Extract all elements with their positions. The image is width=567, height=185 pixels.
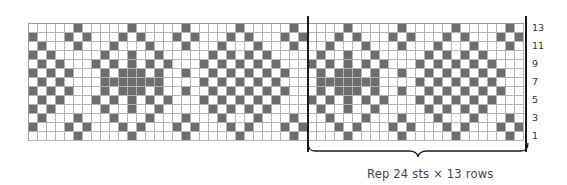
chart-cell xyxy=(371,33,380,42)
chart-cell xyxy=(290,105,299,114)
chart-cell xyxy=(236,105,245,114)
chart-cell xyxy=(434,96,443,105)
chart-cell xyxy=(65,60,74,69)
chart-cell xyxy=(92,78,101,87)
chart-cell xyxy=(452,24,461,33)
chart-cell xyxy=(362,96,371,105)
chart-cell xyxy=(182,78,191,87)
chart-cell xyxy=(353,114,362,123)
chart-cell xyxy=(200,60,209,69)
chart-cell xyxy=(209,96,218,105)
chart-cell xyxy=(281,51,290,60)
chart-cell xyxy=(416,51,425,60)
chart-cell xyxy=(47,51,56,60)
chart-cell xyxy=(227,51,236,60)
chart-cell xyxy=(308,105,317,114)
chart-cell xyxy=(101,105,110,114)
row-number-label: 1 xyxy=(532,131,538,140)
chart-cell xyxy=(380,60,389,69)
chart-cell xyxy=(110,114,119,123)
repeat-line-right xyxy=(525,16,527,152)
chart-cell xyxy=(389,51,398,60)
chart-cell xyxy=(65,78,74,87)
chart-cell xyxy=(452,42,461,51)
chart-cell xyxy=(344,51,353,60)
chart-cell xyxy=(236,42,245,51)
chart-cell xyxy=(191,132,200,141)
chart-cell xyxy=(488,123,497,132)
chart-cell xyxy=(434,24,443,33)
chart-cell xyxy=(281,105,290,114)
chart-cell xyxy=(29,105,38,114)
chart-cell xyxy=(272,96,281,105)
chart-cell xyxy=(56,60,65,69)
chart-cell xyxy=(506,24,515,33)
chart-cell xyxy=(74,69,83,78)
chart-cell xyxy=(227,132,236,141)
chart-cell xyxy=(137,123,146,132)
chart-cell xyxy=(137,33,146,42)
chart-cell xyxy=(362,123,371,132)
chart-cell xyxy=(452,60,461,69)
chart-cell xyxy=(38,42,47,51)
chart-cell xyxy=(191,87,200,96)
chart-cell xyxy=(110,87,119,96)
chart-cell xyxy=(488,24,497,33)
chart-cell xyxy=(308,87,317,96)
chart-cell xyxy=(335,69,344,78)
chart-cell xyxy=(146,78,155,87)
chart-cell xyxy=(110,78,119,87)
chart-cell xyxy=(398,51,407,60)
chart-cell xyxy=(308,132,317,141)
chart-cell xyxy=(56,78,65,87)
chart-cell xyxy=(263,78,272,87)
chart-cell xyxy=(155,105,164,114)
chart-cell xyxy=(83,105,92,114)
chart-cell xyxy=(128,51,137,60)
chart-cell xyxy=(200,132,209,141)
chart-cell xyxy=(344,96,353,105)
chart-cell xyxy=(263,42,272,51)
chart-cell xyxy=(29,42,38,51)
chart-cell xyxy=(119,105,128,114)
chart-cell xyxy=(164,87,173,96)
chart-cell xyxy=(425,114,434,123)
chart-cell xyxy=(272,105,281,114)
chart-cell xyxy=(488,51,497,60)
chart-cell xyxy=(452,87,461,96)
chart-cell xyxy=(65,114,74,123)
chart-cell xyxy=(200,123,209,132)
chart-cell xyxy=(434,42,443,51)
chart-cell xyxy=(155,33,164,42)
chart-cell xyxy=(128,60,137,69)
chart-cell xyxy=(272,51,281,60)
chart-cell xyxy=(137,105,146,114)
chart-cell xyxy=(245,87,254,96)
chart-cell xyxy=(290,114,299,123)
chart-cell xyxy=(425,132,434,141)
chart-cell xyxy=(308,51,317,60)
chart-cell xyxy=(236,51,245,60)
chart-cell xyxy=(362,60,371,69)
chart-cell xyxy=(155,96,164,105)
chart-cell xyxy=(470,96,479,105)
chart-cell xyxy=(326,78,335,87)
chart-cell xyxy=(344,42,353,51)
chart-cell xyxy=(389,60,398,69)
chart-cell xyxy=(146,69,155,78)
chart-cell xyxy=(74,78,83,87)
chart-cell xyxy=(56,114,65,123)
chart-cell xyxy=(326,51,335,60)
chart-cell xyxy=(182,60,191,69)
chart-cell xyxy=(83,24,92,33)
chart-cell xyxy=(47,132,56,141)
chart-cell xyxy=(470,87,479,96)
chart-cell xyxy=(245,96,254,105)
chart-cell xyxy=(443,78,452,87)
chart-cell xyxy=(101,132,110,141)
chart-cell xyxy=(497,96,506,105)
chart-cell xyxy=(101,78,110,87)
chart-cell xyxy=(137,51,146,60)
chart-cell xyxy=(461,123,470,132)
chart-cell xyxy=(29,33,38,42)
